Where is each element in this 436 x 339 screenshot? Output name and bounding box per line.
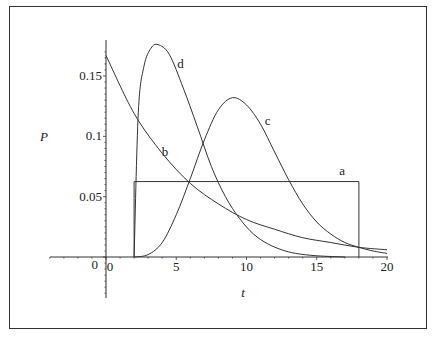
x-tick-label: 20 [381, 259, 394, 274]
y-axis-title: P [39, 129, 48, 144]
chart-plot: 051015200.050.10.150tPabcd [0, 0, 436, 339]
x-tick-label: 10 [240, 259, 253, 274]
curve-label-a: a [339, 163, 345, 178]
y-tick-label: 0.05 [79, 189, 102, 204]
y-tick-label: 0.1 [86, 128, 102, 143]
curve-label-d: d [177, 56, 184, 71]
curve-c [134, 98, 387, 257]
curve-label-b: b [162, 144, 169, 159]
origin-label: 0 [92, 257, 99, 272]
x-tick-label: 15 [310, 259, 323, 274]
x-axis-title: t [241, 285, 245, 300]
x-tick-label: 0 [107, 259, 114, 274]
curve-b [106, 55, 387, 249]
curve-label-c: c [265, 113, 271, 128]
y-tick-label: 0.15 [79, 68, 102, 83]
curves [106, 44, 387, 257]
x-tick-label: 5 [173, 259, 180, 274]
